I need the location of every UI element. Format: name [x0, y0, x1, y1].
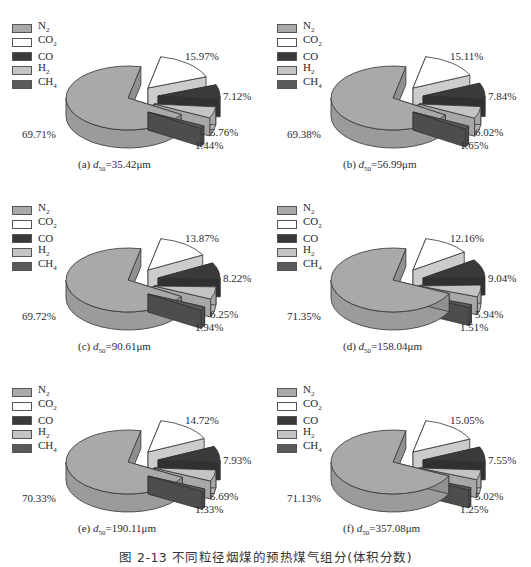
data-label-h2: 5.69% [210, 490, 238, 502]
legend-item-co2: CO2 [12, 218, 57, 231]
legend-swatch [277, 430, 297, 439]
data-label-n2: 71.35% [287, 310, 321, 322]
legend-swatch [12, 66, 32, 75]
legend-item-ch4: CH4 [12, 260, 57, 273]
legend-item-co: CO [277, 50, 322, 63]
legend-item-co: CO [277, 414, 322, 427]
legend-swatch [12, 52, 32, 61]
data-label-n2: 71.13% [287, 492, 321, 504]
legend-item-co2: CO2 [12, 400, 57, 413]
legend-item-co2: CO2 [277, 400, 322, 413]
data-label-ch4: 1.25% [460, 503, 488, 515]
legend-item-ch4: CH4 [277, 78, 322, 91]
data-label-co2: 12.16% [450, 232, 484, 244]
legend-swatch [12, 444, 32, 453]
legend-swatch [12, 234, 32, 243]
legend-swatch [277, 52, 297, 61]
subplot-caption: (a) d50=35.42μm [78, 158, 151, 173]
legend-swatch [12, 80, 32, 89]
legend-item-co2: CO2 [277, 218, 322, 231]
data-label-co: 7.12% [223, 90, 251, 102]
pie-chart-panel-e: N2CO2COH2CH470.33%14.72%7.93%5.69%1.33%(… [0, 372, 260, 542]
chart-legend: N2CO2COH2CH4 [277, 22, 322, 92]
data-label-co: 9.04% [488, 272, 516, 284]
chart-legend: N2CO2COH2CH4 [12, 204, 57, 274]
legend-item-co: CO [12, 414, 57, 427]
legend-swatch [12, 402, 32, 411]
legend-label: CO2 [303, 398, 322, 414]
data-label-n2: 69.71% [22, 128, 56, 140]
legend-label: CO [38, 415, 53, 426]
legend-swatch [277, 220, 297, 229]
legend-label: CO2 [38, 34, 57, 50]
legend-item-co: CO [12, 50, 57, 63]
data-label-h2: 6.25% [210, 308, 238, 320]
legend-label: CO2 [303, 216, 322, 232]
data-label-n2: 69.38% [287, 128, 321, 140]
legend-swatch [12, 38, 32, 47]
legend-label: CO [303, 415, 318, 426]
data-label-h2: 5.02% [475, 490, 503, 502]
legend-swatch [12, 220, 32, 229]
legend-label: CH4 [38, 76, 57, 92]
legend-label: CO2 [38, 216, 57, 232]
legend-label: CH4 [303, 440, 322, 456]
data-label-ch4: 1.51% [460, 321, 488, 333]
data-label-co: 7.93% [223, 454, 251, 466]
legend-label: CH4 [38, 258, 57, 274]
legend-swatch [277, 248, 297, 257]
legend-swatch [277, 388, 297, 397]
data-label-h2: 5.94% [475, 308, 503, 320]
subplot-caption: (f) d50=357.08μm [343, 522, 420, 537]
legend-item-ch4: CH4 [12, 78, 57, 91]
pie-chart-panel-b: N2CO2COH2CH469.38%15.11%7.84%6.02%1.65%(… [265, 8, 525, 178]
legend-swatch [277, 444, 297, 453]
legend-label: CO [303, 51, 318, 62]
chart-legend: N2CO2COH2CH4 [12, 22, 57, 92]
legend-item-co2: CO2 [12, 36, 57, 49]
subplot-caption: (b) d50=56.99μm [343, 158, 417, 173]
legend-swatch [277, 402, 297, 411]
pie-chart-panel-d: N2CO2COH2CH471.35%12.16%9.04%5.94%1.51%(… [265, 190, 525, 360]
legend-item-ch4: CH4 [277, 260, 322, 273]
legend-swatch [277, 416, 297, 425]
pie-chart-panel-c: N2CO2COH2CH469.72%13.87%8.22%6.25%1.94%(… [0, 190, 260, 360]
chart-legend: N2CO2COH2CH4 [277, 204, 322, 274]
legend-item-co2: CO2 [277, 36, 322, 49]
legend-swatch [277, 262, 297, 271]
legend-swatch [12, 24, 32, 33]
legend-label: CH4 [303, 258, 322, 274]
legend-label: CH4 [303, 76, 322, 92]
data-label-co2: 13.87% [185, 232, 219, 244]
legend-label: CH4 [38, 440, 57, 456]
data-label-h2: 5.76% [210, 126, 238, 138]
pie-chart-panel-f: N2CO2COH2CH471.13%15.05%7.55%5.02%1.25%(… [265, 372, 525, 542]
legend-label: CO2 [303, 34, 322, 50]
legend-swatch [277, 206, 297, 215]
subplot-caption: (e) d50=190.11μm [78, 522, 156, 537]
figure-caption: 图 2-13 不同粒径烟煤的预热煤气组分(体积分数) [0, 547, 531, 566]
legend-swatch [277, 66, 297, 75]
data-label-ch4: 1.65% [460, 139, 488, 151]
legend-item-co: CO [277, 232, 322, 245]
data-label-co2: 15.05% [450, 414, 484, 426]
data-label-co: 7.55% [488, 454, 516, 466]
data-label-co2: 15.11% [450, 50, 484, 62]
legend-label: CO [38, 51, 53, 62]
data-label-co: 7.84% [488, 90, 516, 102]
legend-item-ch4: CH4 [277, 442, 322, 455]
data-label-ch4: 1.33% [195, 503, 223, 515]
chart-legend: N2CO2COH2CH4 [277, 386, 322, 456]
data-label-ch4: 1.44% [195, 139, 223, 151]
legend-swatch [277, 234, 297, 243]
data-label-co2: 14.72% [185, 414, 219, 426]
subplot-caption: (d) d50=158.04μm [343, 340, 422, 355]
data-label-co2: 15.97% [185, 50, 219, 62]
data-label-n2: 69.72% [22, 310, 56, 322]
legend-swatch [277, 80, 297, 89]
legend-swatch [277, 24, 297, 33]
pie-chart-panel-a: N2CO2COH2CH469.71%15.97%7.12%5.76%1.44%(… [0, 8, 260, 178]
data-label-h2: 6.02% [475, 126, 503, 138]
legend-swatch [12, 248, 32, 257]
chart-legend: N2CO2COH2CH4 [12, 386, 57, 456]
